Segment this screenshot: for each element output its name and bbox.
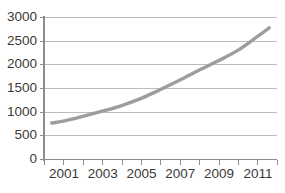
line-chart: 3000 2500 2000 1500 1000 500 0 2001 [0,0,285,193]
y-axis-label-1500: 1500 [7,80,37,95]
x-axis-label-2005: 2005 [126,166,156,181]
x-axis-label-2007: 2007 [165,166,195,181]
y-axis-label-2000: 2000 [7,56,37,71]
x-axis-label-2003: 2003 [88,166,118,181]
y-axis-label-1000: 1000 [7,104,37,119]
y-axis-label-3000: 3000 [7,9,37,24]
x-axis-label-2009: 2009 [204,166,234,181]
chart-canvas: 3000 2500 2000 1500 1000 500 0 2001 [0,0,285,193]
y-axis-label-500: 500 [14,127,37,142]
y-axis-label-2500: 2500 [7,33,37,48]
x-axis-label-2011: 2011 [243,166,272,181]
x-axis-label-2001: 2001 [49,166,79,181]
y-axis-label-0: 0 [29,151,37,166]
